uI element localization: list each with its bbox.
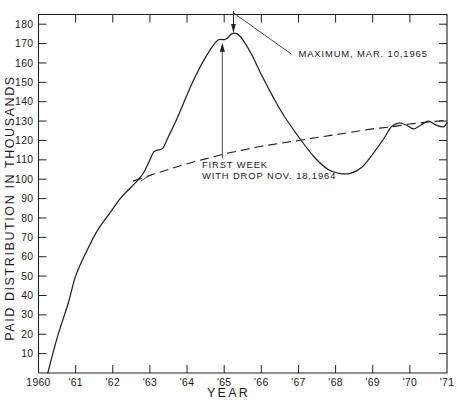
y-tick-label: 90 [21, 193, 33, 204]
y-tick-label: 30 [21, 309, 33, 320]
paid-distribution-series [48, 33, 447, 373]
y-tick-label: 80 [21, 213, 33, 224]
annotation-first-week: FIRST WEEK WITH DROP NOV. 18,1964 [141, 43, 337, 182]
annotation-maximum: MAXIMUM, MAR. 10,1965 [231, 11, 428, 59]
chart-canvas: 1020304050607080901001101201301401501601… [0, 0, 457, 416]
plot-frame [39, 15, 448, 374]
annotation-first-week-label-line1: FIRST WEEK [202, 159, 268, 170]
y-tick-label: 10 [21, 348, 33, 359]
y-tick-label: 60 [21, 251, 33, 262]
y-tick-label: 20 [21, 329, 33, 340]
annotation-first-week-label-line2: WITH DROP NOV. 18,1964 [202, 170, 336, 181]
y-axis-title: PAID DISTRIBUTION IN THOUSANDS [3, 75, 17, 341]
y-axis-title-wrap: PAID DISTRIBUTION IN THOUSANDS [0, 0, 21, 416]
x-axis-ticks [76, 15, 410, 374]
figure: 1020304050607080901001101201301401501601… [0, 0, 457, 416]
annotation-maximum-label: MAXIMUM, MAR. 10,1965 [298, 48, 427, 59]
y-axis-ticks [39, 24, 448, 353]
y-tick-label: 70 [21, 232, 33, 243]
x-axis-title: YEAR [0, 386, 457, 400]
y-tick-label: 40 [21, 290, 33, 301]
y-tick-label: 50 [21, 271, 33, 282]
